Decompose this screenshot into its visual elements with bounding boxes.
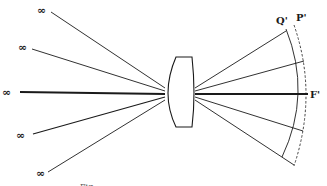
ray-4-out [195,97,303,131]
ray-3-in [20,92,165,94]
ray-2-out [195,61,304,91]
incoming-rays [20,12,165,172]
infinity-label-4: ∞ [16,129,25,142]
infinity-label-1: ∞ [37,4,46,17]
outgoing-rays [195,31,308,165]
ray-5-in [48,100,165,172]
ray-4-in [33,97,165,134]
ray-1-out [195,31,286,88]
label-f-prime: F' [310,89,320,100]
ray-1-in [51,12,165,88]
label-p-prime: P' [296,12,307,23]
focal-arc-dashed [294,25,306,166]
lens [168,57,194,127]
infinity-label-3: ∞ [2,86,11,99]
ray-2-in [32,49,165,91]
infinity-label-5: ∞ [36,167,45,180]
ray-5-out [195,100,294,165]
curved-image-surface [282,29,298,157]
figure-caption: Fig. ... [80,182,106,186]
label-q-prime: Q' [276,15,288,26]
infinity-label-2: ∞ [18,41,27,54]
diagram: ∞ ∞ ∞ ∞ ∞ Q' P' F' Fig. ... [0,0,327,186]
